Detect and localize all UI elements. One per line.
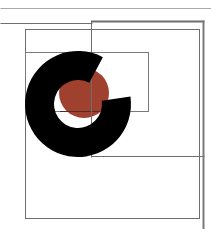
diagram-canvas [0,0,211,229]
diagram-svg [0,0,211,229]
